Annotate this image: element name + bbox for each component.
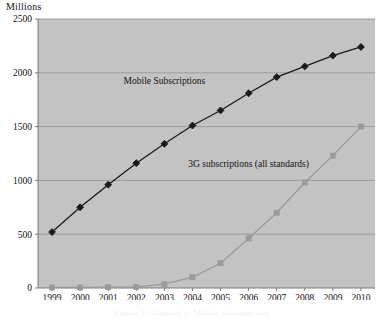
x-axis-ticks: 1999200020012002200320042005200620072008… xyxy=(43,288,371,300)
x-tick-label: 2001 xyxy=(99,293,118,300)
y-tick-label: 500 xyxy=(18,230,33,240)
x-tick-label: 2004 xyxy=(183,293,202,300)
data-point-marker xyxy=(218,261,223,266)
y-axis-ticks: 05001000150020002500 xyxy=(13,14,38,293)
data-point-marker xyxy=(134,284,139,289)
data-point-marker xyxy=(78,285,83,290)
data-point-marker xyxy=(274,210,279,215)
x-tick-label: 2003 xyxy=(155,293,174,300)
data-point-marker xyxy=(358,124,363,129)
x-tick-label: 1999 xyxy=(43,293,62,300)
figure-caption: Figure 1.1 Growth of Mobile Subscription… xyxy=(0,308,385,321)
x-tick-label: 2010 xyxy=(351,293,370,300)
chart-figure: Millions 05001000150020002500 1999200020… xyxy=(0,0,385,321)
series-annotation-label: 3G subscriptions (all standards) xyxy=(188,159,309,170)
y-tick-label: 2500 xyxy=(13,14,32,24)
plot-area: 05001000150020002500 1999200020012002200… xyxy=(0,0,385,300)
data-point-marker xyxy=(330,153,335,158)
y-tick-label: 1000 xyxy=(13,176,32,186)
data-point-marker xyxy=(49,285,54,290)
y-tick-label: 0 xyxy=(27,283,32,293)
x-tick-label: 2009 xyxy=(323,293,342,300)
x-tick-label: 2006 xyxy=(239,293,258,300)
x-tick-label: 2000 xyxy=(71,293,90,300)
y-tick-label: 1500 xyxy=(13,122,32,132)
x-tick-label: 2007 xyxy=(267,293,286,300)
x-tick-label: 2005 xyxy=(211,293,230,300)
data-point-marker xyxy=(190,275,195,280)
chart-svg: 05001000150020002500 1999200020012002200… xyxy=(0,0,385,300)
data-point-marker xyxy=(162,282,167,287)
series-annotation-label: Mobile Subscriptions xyxy=(124,76,206,86)
y-tick-label: 2000 xyxy=(13,68,32,78)
data-point-marker xyxy=(246,236,251,241)
x-tick-label: 2008 xyxy=(295,293,314,300)
data-point-marker xyxy=(106,285,111,290)
data-point-marker xyxy=(302,180,307,185)
x-tick-label: 2002 xyxy=(127,293,146,300)
